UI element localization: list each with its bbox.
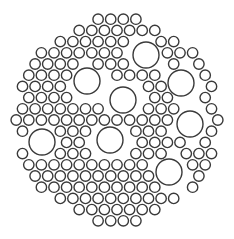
small-circle — [49, 115, 59, 125]
small-circle — [55, 126, 65, 136]
small-circle — [55, 36, 65, 46]
small-circle — [55, 193, 65, 203]
small-circle — [36, 70, 46, 80]
small-circle — [87, 182, 97, 192]
small-circle — [112, 115, 122, 125]
small-circle — [68, 59, 78, 69]
small-circle — [118, 59, 128, 69]
small-circle — [112, 70, 122, 80]
small-circle — [93, 216, 103, 226]
small-circle — [137, 25, 147, 35]
small-circle — [24, 115, 34, 125]
small-circle — [143, 104, 153, 114]
small-circle — [156, 81, 166, 91]
small-circle — [131, 193, 141, 203]
small-circle — [30, 81, 40, 91]
small-circle — [99, 182, 109, 192]
small-circle — [124, 204, 134, 214]
small-circle — [30, 104, 40, 114]
small-circle — [93, 104, 103, 114]
small-circle — [24, 160, 34, 170]
small-circle — [124, 160, 134, 170]
small-circle — [150, 25, 160, 35]
small-circle — [156, 148, 166, 158]
small-circle — [200, 137, 210, 147]
small-circle — [169, 59, 179, 69]
small-circle — [194, 59, 204, 69]
small-circle — [36, 160, 46, 170]
small-circle — [106, 59, 116, 69]
small-circle — [131, 216, 141, 226]
small-circle — [143, 81, 153, 91]
large-circle — [97, 127, 123, 153]
small-circle — [49, 182, 59, 192]
small-circle — [150, 92, 160, 102]
small-circle — [49, 160, 59, 170]
small-circle — [55, 171, 65, 181]
small-circle — [61, 70, 71, 80]
small-circle — [61, 115, 71, 125]
small-circle — [11, 115, 21, 125]
small-circle — [150, 182, 160, 192]
small-circle — [175, 48, 185, 58]
small-circle — [80, 193, 90, 203]
small-circle — [137, 70, 147, 80]
small-circle — [87, 25, 97, 35]
small-circle — [80, 104, 90, 114]
small-circle — [150, 204, 160, 214]
small-circle — [137, 204, 147, 214]
small-circle — [49, 48, 59, 58]
large-circle — [133, 42, 159, 68]
small-circle — [106, 36, 116, 46]
small-circle — [131, 148, 141, 158]
small-circle — [112, 204, 122, 214]
small-circle — [55, 148, 65, 158]
small-circle — [87, 204, 97, 214]
small-circle — [175, 137, 185, 147]
small-circle — [169, 104, 179, 114]
small-circle — [99, 204, 109, 214]
small-circle — [137, 182, 147, 192]
small-circle — [80, 36, 90, 46]
small-circle — [118, 171, 128, 181]
small-circle — [17, 81, 27, 91]
small-circle — [118, 193, 128, 203]
small-circle — [99, 48, 109, 58]
small-circle — [68, 36, 78, 46]
small-circle — [162, 115, 172, 125]
small-circle — [99, 160, 109, 170]
small-circle — [68, 193, 78, 203]
small-circle — [106, 171, 116, 181]
small-circle — [68, 104, 78, 114]
small-circle — [169, 193, 179, 203]
small-circle — [112, 48, 122, 58]
small-circle — [87, 48, 97, 58]
small-circle — [61, 92, 71, 102]
small-circle — [93, 171, 103, 181]
small-circle — [93, 193, 103, 203]
small-circle — [112, 182, 122, 192]
small-circle — [17, 126, 27, 136]
small-circle — [49, 92, 59, 102]
small-circle — [156, 126, 166, 136]
small-circle — [124, 25, 134, 35]
small-circle — [30, 171, 40, 181]
small-circle — [200, 70, 210, 80]
small-circle — [131, 171, 141, 181]
small-circle — [61, 48, 71, 58]
small-circle — [150, 115, 160, 125]
small-circle — [169, 36, 179, 46]
small-circle — [213, 115, 223, 125]
small-circle — [112, 160, 122, 170]
small-circle — [112, 25, 122, 35]
small-circle — [74, 160, 84, 170]
small-circle — [156, 36, 166, 46]
small-circle — [156, 104, 166, 114]
small-circle — [162, 48, 172, 58]
small-circle — [55, 104, 65, 114]
small-circle — [55, 59, 65, 69]
small-circle — [74, 182, 84, 192]
large-circle — [177, 111, 203, 137]
small-circle — [150, 137, 160, 147]
small-circle — [162, 92, 172, 102]
